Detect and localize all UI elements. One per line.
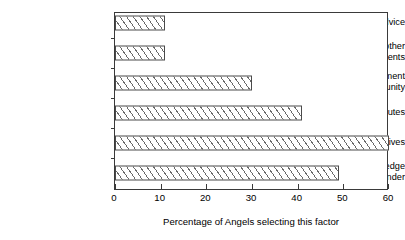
- x-axis-tick-label-40: 40: [291, 192, 302, 203]
- bar-better-knowledge-of-founder: [115, 166, 339, 181]
- x-axis-tick-label-50: 50: [337, 192, 348, 203]
- x-axis-tick-label-10: 10: [154, 192, 165, 203]
- x-axis-tick-label-20: 20: [200, 192, 211, 203]
- x-axis-tick-label-30: 30: [246, 192, 257, 203]
- x-axis-tick: [161, 184, 162, 189]
- x-axis-tick: [115, 184, 116, 189]
- bar-co-investment-opportunity: [115, 76, 252, 91]
- bar-better-tax-incentives: [115, 136, 389, 151]
- bar-knowledge-other-angels: [115, 46, 165, 61]
- y-axis-tick: [111, 68, 115, 69]
- bar-available-exit-routes: [115, 106, 302, 121]
- x-axis-tick-label-60: 60: [383, 192, 394, 203]
- bar-corporate-advice: [115, 16, 165, 31]
- x-axis-tick: [343, 184, 344, 189]
- y-axis-tick: [111, 38, 115, 39]
- x-axis-tick: [388, 184, 389, 189]
- bar-chart: Corporate advice Knowledge of other Ange…: [0, 0, 405, 240]
- y-axis-tick: [111, 98, 115, 99]
- x-axis-tick-label-0: 0: [111, 192, 116, 203]
- y-axis-tick: [111, 158, 115, 159]
- x-axis-tick: [206, 184, 207, 189]
- x-axis-title: Percentage of Angels selecting this fact…: [114, 216, 388, 227]
- plot-area: [114, 12, 388, 190]
- x-axis-tick: [298, 184, 299, 189]
- y-axis-tick: [111, 128, 115, 129]
- x-axis-tick: [252, 184, 253, 189]
